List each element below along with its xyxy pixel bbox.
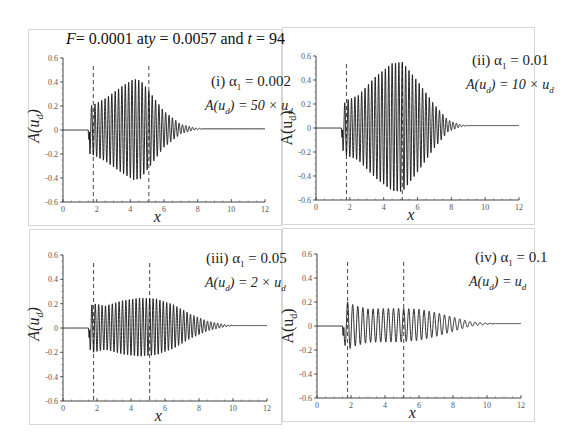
x-axis-label: x (408, 404, 416, 421)
x-tick-label: 12 (261, 205, 269, 214)
x-tick-label: 2 (349, 401, 353, 410)
y-tick-label: 0.4 (301, 76, 311, 85)
x-axis-label: x (406, 206, 414, 223)
y-axis-label: A(ud) (278, 110, 298, 145)
x-tick-label: 10 (229, 404, 237, 413)
panel-label: (i) α1 = 0.002 (211, 73, 291, 92)
panel-label: (iv) α1 = 0.1 (475, 249, 548, 268)
y-tick-label: -0.2 (299, 346, 312, 355)
y-tick-label: -0.4 (299, 370, 312, 379)
panel-label: (ii) α1 = 0.01 (472, 52, 549, 71)
x-tick-label: 6 (417, 401, 421, 410)
scale-annotation: A(ud) = ud (468, 274, 527, 292)
x-tick-label: 8 (197, 404, 201, 413)
x-tick-label: 10 (481, 203, 489, 212)
x-tick-label: 2 (348, 203, 352, 212)
y-tick-label: 0 (54, 126, 58, 135)
x-tick-label: 12 (263, 404, 271, 413)
y-axis-label: A(ud) (25, 307, 45, 341)
x-tick-label: 6 (162, 205, 166, 214)
x-tick-label: 4 (128, 205, 132, 214)
x-tick-label: 4 (129, 404, 133, 413)
y-tick-label: 0.4 (48, 275, 58, 284)
chart-i: 0.60.40.20-0.2-0.4-0.6024681012xA(ud)(i)… (25, 54, 293, 225)
scale-annotation: A(ud) = 2 × ud (204, 275, 286, 293)
chart-iii: 0.60.40.20-0.2-0.4-0.6024681012xA(ud)(ii… (25, 250, 287, 424)
y-tick-label: 0.2 (301, 100, 311, 109)
y-tick-label: 0.2 (48, 300, 58, 309)
x-tick-label: 8 (196, 205, 200, 214)
x-tick-label: 12 (517, 401, 525, 410)
x-tick-label: 4 (382, 203, 386, 212)
x-axis-label: x (154, 407, 162, 424)
y-tick-label: -0.2 (45, 348, 58, 357)
y-tick-label: 0.6 (301, 52, 311, 61)
x-tick-label: 12 (515, 203, 523, 212)
x-tick-label: 8 (449, 203, 453, 212)
x-axis-label: x (153, 208, 161, 225)
y-tick-label: -0.4 (45, 373, 58, 382)
y-tick-label: 0.2 (302, 298, 312, 307)
x-tick-label: 2 (95, 404, 99, 413)
y-tick-label: -0.6 (299, 394, 312, 403)
chart-iv: 0.60.40.20-0.2-0.4-0.6024681012xA(ud)(iv… (279, 249, 548, 421)
x-tick-label: 4 (383, 401, 387, 410)
x-tick-label: 0 (61, 404, 65, 413)
y-axis-label: A(ud) (25, 109, 45, 143)
scale-annotation: A(ud) = 10 × ud (465, 77, 554, 95)
x-tick-label: 6 (163, 404, 167, 413)
y-tick-label: 0.4 (48, 78, 58, 87)
y-tick-label: 0.2 (48, 102, 58, 111)
x-tick-label: 0 (314, 203, 318, 212)
y-tick-label: 0.6 (48, 251, 58, 260)
y-tick-label: -0.4 (45, 174, 58, 183)
y-tick-label: -0.2 (45, 150, 58, 159)
y-tick-label: -0.6 (45, 198, 58, 207)
y-tick-label: -0.2 (298, 148, 311, 157)
y-tick-label: -0.6 (45, 397, 58, 406)
y-tick-label: 0.4 (302, 274, 312, 283)
x-tick-label: 0 (315, 401, 319, 410)
x-tick-label: 10 (483, 401, 491, 410)
x-tick-label: 8 (451, 401, 455, 410)
panel-label: (iii) α1 = 0.05 (206, 250, 287, 269)
plots-canvas: 0.60.40.20-0.2-0.4-0.6024681012xA(ud)(i)… (0, 0, 561, 442)
y-tick-label: 0 (307, 124, 311, 133)
y-tick-label: 0.6 (302, 250, 312, 259)
x-tick-label: 2 (95, 205, 99, 214)
chart-ii: 0.60.40.20-0.2-0.4-0.6024681012xA(ud)(ii… (278, 52, 554, 223)
y-tick-label: -0.6 (298, 196, 311, 205)
x-tick-label: 0 (61, 205, 65, 214)
y-tick-label: 0 (54, 324, 58, 333)
x-tick-label: 10 (227, 205, 235, 214)
y-axis-label: A(ud) (279, 308, 299, 343)
y-tick-label: 0 (308, 322, 312, 331)
y-tick-label: 0.6 (48, 54, 58, 63)
y-tick-label: -0.4 (298, 172, 311, 181)
x-tick-label: 6 (416, 203, 420, 212)
